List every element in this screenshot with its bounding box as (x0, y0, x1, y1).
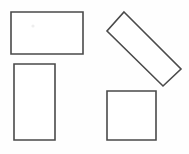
tall-rectangle-bottom-left[interactable] (14, 64, 55, 140)
square-bottom-right[interactable] (107, 91, 156, 140)
shapes-svg (0, 0, 189, 154)
figure-canvas (0, 0, 189, 154)
faint-speck-artifact (31, 24, 34, 27)
wide-rectangle-top-left[interactable] (11, 12, 83, 54)
